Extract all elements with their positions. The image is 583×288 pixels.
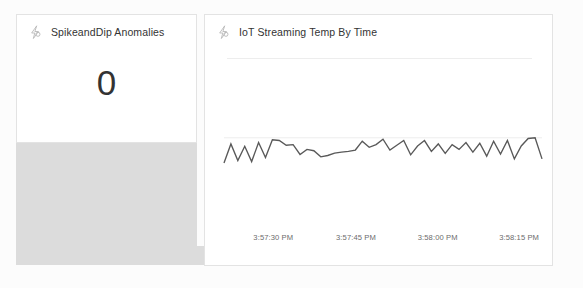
chart-tile-header: IoT Streaming Temp By Time [205,15,552,37]
x-axis-tick-label: 3:57:30 PM [253,233,293,242]
x-axis-tick-label: 3:58:15 PM [499,233,539,242]
kpi-tile-title: SpikeandDip Anomalies [51,26,164,39]
x-axis-tick-label: 3:58:00 PM [418,233,458,242]
x-axis-tick-label: 3:57:45 PM [336,233,376,242]
lightning-bolt-icon [217,25,230,40]
dashboard-page: SpikeandDip Anomalies 0 IoT Streaming Te… [0,0,583,288]
chart-x-axis: 3:57:30 PM3:57:45 PM3:58:00 PM3:58:15 PM [224,233,542,249]
chart-title-divider [227,58,532,59]
chart-plot-area[interactable] [224,69,542,233]
kpi-tile-header: SpikeandDip Anomalies [17,15,196,37]
tile-spikeanddip-anomalies[interactable]: SpikeandDip Anomalies 0 [16,14,197,143]
chart-tile-title: IoT Streaming Temp By Time [239,26,377,39]
page-background-panel [16,143,197,265]
lightning-bolt-icon [29,25,42,40]
kpi-value: 0 [97,65,116,101]
kpi-value-container: 0 [17,37,196,129]
chart-series-line [224,138,542,163]
line-chart-svg [224,69,542,233]
tile-iot-streaming-temp-by-time[interactable]: IoT Streaming Temp By Time 3:57:30 PM3:5… [204,14,553,266]
